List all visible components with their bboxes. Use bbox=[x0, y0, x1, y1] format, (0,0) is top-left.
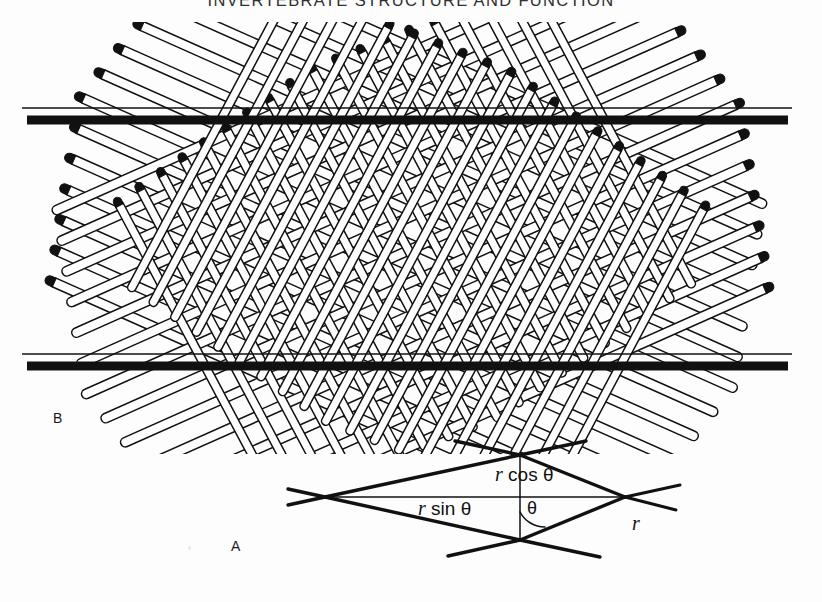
label-r-sin-theta-var: r bbox=[418, 497, 426, 519]
label-r-sin-theta-rest: sin θ bbox=[426, 498, 471, 519]
panel-letter-a: A bbox=[231, 538, 240, 554]
extension-top-right bbox=[520, 441, 586, 455]
extension-top-left bbox=[455, 441, 520, 455]
label-r-var: r bbox=[632, 512, 640, 534]
page-canvas: INVERTEBRATE STRUCTURE AND FUNCTION bbox=[0, 0, 822, 602]
extension-right-upper bbox=[625, 485, 680, 497]
label-theta: θ bbox=[527, 498, 537, 519]
label-r: r bbox=[632, 512, 640, 535]
scan-speck bbox=[188, 546, 191, 550]
extension-bottom-right bbox=[520, 540, 600, 557]
panel-a-geometry bbox=[0, 0, 822, 602]
panel-letter-b: B bbox=[53, 410, 62, 426]
label-r-cos-theta: r cos θ bbox=[495, 463, 554, 486]
label-r-cos-theta-rest: cos θ bbox=[503, 464, 554, 485]
extension-left-upper bbox=[288, 489, 325, 497]
extension-right-lower bbox=[625, 497, 676, 510]
extension-bottom-left bbox=[448, 540, 520, 556]
label-r-cos-theta-var: r bbox=[495, 463, 503, 485]
label-r-sin-theta: r sin θ bbox=[418, 497, 471, 520]
extension-left-lower bbox=[288, 497, 325, 505]
rhombus-edge-upper-left bbox=[325, 455, 520, 497]
